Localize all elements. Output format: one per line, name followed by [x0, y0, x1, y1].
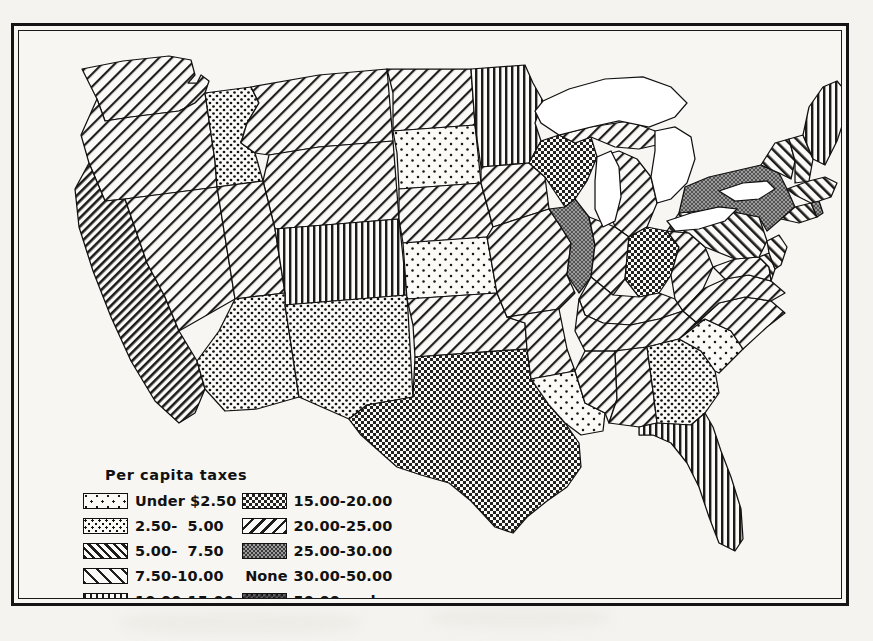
legend-item: 5.00- 7.50 — [83, 540, 236, 562]
legend-label: 20.00-25.00 — [293, 518, 392, 534]
legend-swatch-left-hatch — [242, 518, 287, 534]
legend-item: Under $2.50 — [83, 490, 236, 512]
legend-label: 2.50- 5.00 — [135, 518, 224, 534]
legend-item: 50.00 and over — [242, 590, 417, 598]
legend-swatch-sparse-right-hatch — [83, 568, 128, 584]
legend-none-word: None — [242, 568, 287, 584]
state-kansas — [403, 237, 497, 299]
legend-item: 2.50- 5.00 — [83, 515, 236, 537]
state-minnesota — [471, 65, 543, 167]
state-florida — [639, 413, 743, 551]
legend-label: 10.00-15.00 — [135, 593, 234, 598]
legend-item: 20.00-25.00 — [242, 515, 417, 537]
state-ohio — [625, 227, 679, 297]
legend-item: 7.50-10.00 — [83, 565, 236, 587]
paper-smudge — [120, 612, 360, 634]
legend-swatch-sparse-dots — [83, 493, 128, 509]
legend-item: 10.00-15.00 — [83, 590, 236, 598]
state-nebraska — [399, 183, 493, 243]
map-legend: Per capita taxes Under $2.50 2.50- 5.00 — [83, 467, 391, 598]
legend-label: 30.00-50.00 — [293, 568, 392, 584]
legend-swatch-fine-stipple — [242, 543, 287, 559]
legend-swatch-dark-checker — [242, 593, 287, 598]
paper-smudge — [430, 608, 610, 628]
legend-item: 15.00-20.00 — [242, 490, 417, 512]
legend-item: 25.00-30.00 — [242, 540, 417, 562]
legend-swatch-dense-dots — [83, 518, 128, 534]
legend-label: 15.00-20.00 — [293, 493, 392, 509]
state-colorado — [275, 219, 407, 305]
legend-label: Under $2.50 — [135, 493, 236, 509]
legend-item: None 30.00-50.00 — [242, 565, 417, 587]
paper-plate: Per capita taxes Under $2.50 2.50- 5.00 — [0, 0, 873, 641]
us-map: Per capita taxes Under $2.50 2.50- 5.00 — [19, 31, 841, 598]
legend-column-left: Under $2.50 2.50- 5.00 5.00- 7.50 7.50-1… — [83, 490, 236, 598]
legend-label: 50.00 and over — [293, 593, 417, 598]
legend-column-right: 15.00-20.00 20.00-25.00 25.00-30.00 None… — [242, 490, 417, 598]
state-wyoming — [263, 141, 399, 229]
state-montana — [241, 69, 393, 155]
legend-title: Per capita taxes — [105, 467, 391, 483]
legend-swatch-vertical-lines — [83, 593, 128, 598]
legend-swatch-dense-right-hatch — [83, 543, 128, 559]
legend-swatch-cross-hatch — [242, 493, 287, 509]
state-south-dakota — [393, 125, 481, 189]
legend-label: 7.50-10.00 — [135, 568, 224, 584]
legend-label: 5.00- 7.50 — [135, 543, 224, 559]
legend-label: 25.00-30.00 — [293, 543, 392, 559]
state-north-dakota — [387, 69, 475, 131]
